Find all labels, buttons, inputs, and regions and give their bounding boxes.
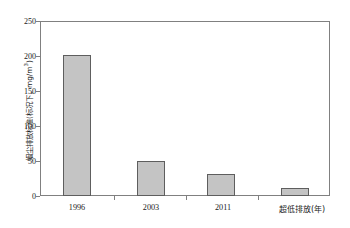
y-axis-title: 烟尘排放标准(标况下，mg/m3) (23, 26, 34, 196)
x-tick-label-2003: 2003 (131, 203, 171, 212)
x-tick-label-2011: 2011 (203, 203, 243, 212)
x-tick-mark-3 (258, 196, 259, 200)
y-tick-label-250: 250 (10, 17, 36, 26)
bar-ultra-low (281, 188, 309, 196)
y-tick-label-50: 50 (10, 157, 36, 166)
x-tick-label-1996: 1996 (57, 203, 97, 212)
dust-emission-standard-bar-chart: 烟尘排放标准(标况下，mg/m3) 250 200 150 100 50 0 1… (0, 0, 350, 228)
bar-1996 (63, 55, 91, 196)
y-axis-title-text: 烟尘排放标准(标况下，mg/m (25, 66, 34, 160)
y-tick-label-150: 150 (10, 87, 36, 96)
x-tick-mark-2 (186, 196, 187, 200)
y-axis-title-superscript: 3 (23, 63, 29, 66)
y-tick-label-200: 200 (10, 52, 36, 61)
bar-2003 (137, 161, 165, 196)
x-axis-unit-label: (年) (311, 203, 325, 214)
bar-2011 (207, 174, 235, 196)
y-tick-label-100: 100 (10, 122, 36, 131)
y-tick-label-0: 0 (10, 192, 36, 201)
y-tick-mark-0 (36, 196, 40, 197)
x-tick-mark-1 (114, 196, 115, 200)
